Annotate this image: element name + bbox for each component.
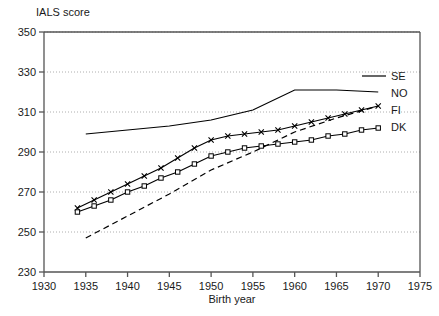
ials-score-line-chart: 230250270290310330350 193019351940194519…: [0, 0, 439, 316]
x-tick-label: 1935: [74, 280, 98, 292]
x-tick-label: 1940: [115, 280, 139, 292]
x-tick-label: 1975: [408, 280, 432, 292]
x-tick-label: 1930: [32, 280, 56, 292]
chart-legend: SENOFIDK: [362, 70, 408, 133]
x-tick-label: 1960: [282, 280, 306, 292]
y-tick-label: 250: [18, 226, 36, 238]
y-tick-label: 310: [18, 106, 36, 118]
x-tick-label: 1945: [157, 280, 181, 292]
x-tick-label: 1955: [241, 280, 265, 292]
legend-label-dk: DK: [391, 121, 407, 133]
y-tick-label: 350: [18, 26, 36, 38]
series-dk: [75, 126, 380, 214]
legend-label-fi: FI: [391, 104, 401, 116]
series-se: [86, 90, 378, 134]
x-tick-label: 1950: [199, 280, 223, 292]
legend-label-no: NO: [391, 87, 408, 99]
y-tick-label: 270: [18, 186, 36, 198]
series-fi: [75, 103, 381, 210]
y-tick-label: 330: [18, 66, 36, 78]
y-tick-label: 290: [18, 146, 36, 158]
x-axis-ticks: 1930193519401945195019551960196519701975: [32, 272, 432, 292]
legend-label-se: SE: [391, 70, 406, 82]
chart-figure: 230250270290310330350 193019351940194519…: [0, 0, 439, 316]
y-axis-title: IALS score: [36, 6, 90, 18]
plot-frame: [44, 32, 420, 272]
x-tick-label: 1970: [366, 280, 390, 292]
x-axis-title: Birth year: [208, 293, 255, 305]
x-tick-label: 1965: [324, 280, 348, 292]
y-axis-ticks: 230250270290310330350: [18, 26, 44, 278]
series-no: [86, 106, 378, 238]
y-tick-label: 230: [18, 266, 36, 278]
